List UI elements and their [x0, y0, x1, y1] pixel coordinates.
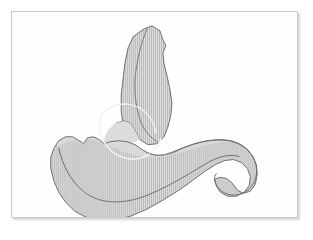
illustration-plate-inner: vertebra-oblique-view [12, 12, 297, 217]
screenshot-viewport: vertebra-oblique-view [0, 0, 313, 240]
vertebra-figure [12, 12, 297, 217]
illustration-plate: vertebra-oblique-view [11, 11, 298, 218]
